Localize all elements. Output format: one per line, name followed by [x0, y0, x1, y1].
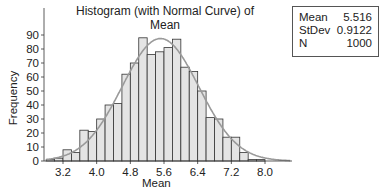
y-tick-label: 80 — [26, 43, 39, 55]
y-tick-label: 50 — [26, 85, 39, 97]
x-tick-label: 8.0 — [257, 166, 273, 178]
histogram-bar — [198, 91, 206, 161]
x-tick-label: 4.0 — [89, 166, 105, 178]
histogram-bar — [122, 74, 130, 161]
histogram-bar — [240, 153, 248, 161]
histogram-bar — [147, 55, 155, 161]
histogram-bar — [139, 38, 147, 161]
histogram-bar — [206, 118, 214, 161]
y-tick-label: 30 — [26, 113, 39, 125]
stats-box: Mean5.516 StDev0.9122 N1000 — [292, 6, 379, 57]
histogram-bar — [164, 48, 172, 161]
y-tick-label: 0 — [33, 155, 39, 167]
chart-title: Histogram (with Normal Curve) of Mean — [60, 4, 270, 32]
histogram-bar — [223, 137, 231, 161]
histogram-bar — [172, 39, 180, 161]
histogram-bar — [105, 105, 113, 161]
y-axis-label: Frequency — [7, 71, 19, 125]
stdev-label: StDev — [299, 24, 330, 37]
histogram-bar — [189, 71, 197, 161]
y-tick-label: 10 — [26, 141, 39, 153]
x-tick-label: 6.4 — [190, 166, 207, 178]
stdev-value: 0.9122 — [337, 24, 372, 37]
n-label: N — [299, 37, 307, 50]
histogram-bar — [71, 153, 79, 161]
y-tick-label: 60 — [26, 71, 39, 83]
y-tick-label: 70 — [26, 57, 39, 69]
y-tick-label: 90 — [26, 29, 39, 41]
y-tick-label: 20 — [26, 127, 39, 139]
histogram-bar — [114, 104, 122, 161]
n-value: 1000 — [346, 37, 372, 50]
histogram-bar — [156, 52, 164, 161]
mean-label: Mean — [299, 11, 328, 24]
mean-value: 5.516 — [343, 11, 372, 24]
x-tick-label: 3.2 — [55, 166, 71, 178]
x-tick-label: 4.8 — [122, 166, 138, 178]
histogram-bar — [181, 67, 189, 161]
y-tick-label: 40 — [26, 99, 39, 111]
x-tick-label: 7.2 — [223, 166, 239, 178]
x-axis-label: Mean — [142, 177, 171, 189]
histogram-bar — [130, 63, 138, 161]
